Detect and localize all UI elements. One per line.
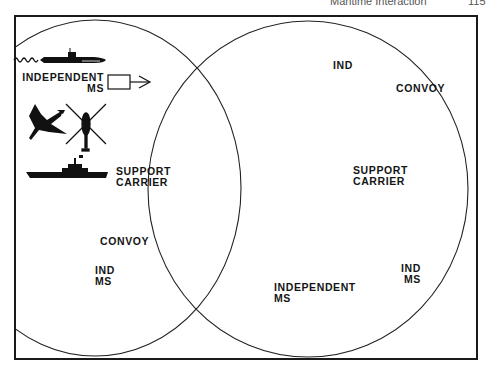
submarine-icon (14, 48, 106, 63)
merchant-ship-box-icon (108, 75, 150, 89)
support-carrier-label: SUPPORT CARRIER (116, 166, 171, 188)
helicopter-icon (66, 104, 106, 151)
convoy-label: CONVOY (100, 236, 149, 247)
aircraft-icon (29, 104, 67, 140)
support-carrier-label: SUPPORT CARRIER (353, 165, 408, 187)
label-line: CARRIER (116, 177, 171, 188)
convoy-label: CONVOY (396, 83, 445, 94)
ind-ms-label: IND MS (401, 263, 421, 285)
label-line: MS (274, 293, 356, 304)
independent-ms-label: INDEPENDENT MS (20, 72, 104, 94)
label-line: CARRIER (353, 176, 408, 187)
carrier-icon (26, 155, 108, 178)
label-line: MS (20, 83, 104, 94)
ind-ms-label: IND MS (95, 265, 115, 287)
venn-diagram (0, 0, 492, 373)
independent-ms-label: INDEPENDENT MS (274, 282, 356, 304)
right-circle (148, 21, 468, 357)
ind-label: IND (333, 60, 353, 71)
label-line: MS (401, 274, 421, 285)
label-line: MS (95, 276, 115, 287)
